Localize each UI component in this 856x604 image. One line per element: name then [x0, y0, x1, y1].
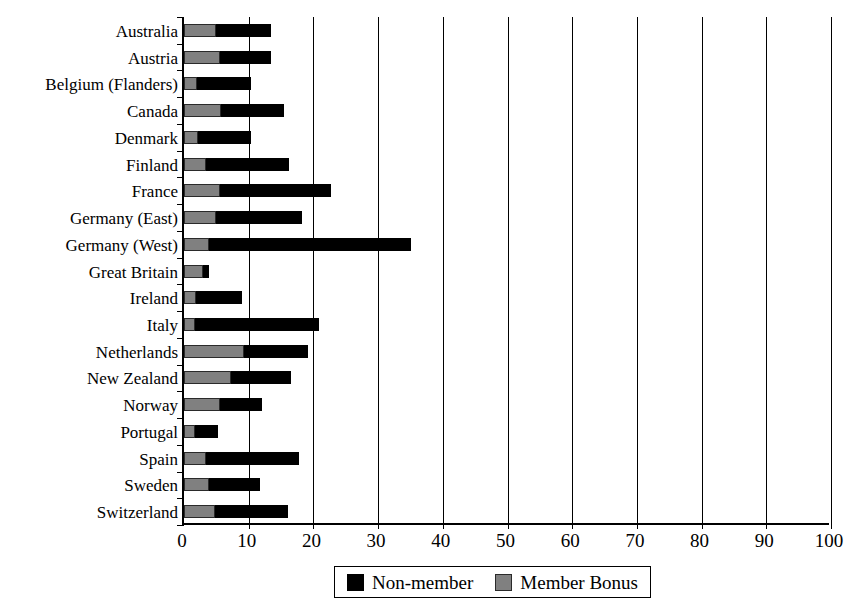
gridline-10 — [249, 17, 250, 523]
gridline-70 — [637, 17, 638, 523]
y-axis-label: Norway — [2, 397, 178, 414]
x-tick-label: 100 — [815, 530, 844, 552]
y-tick — [177, 44, 184, 45]
y-tick — [177, 97, 184, 98]
bar-segment-non-member — [206, 158, 289, 171]
bar-segment-member-bonus — [184, 478, 209, 491]
x-tick-label: 30 — [367, 530, 386, 552]
bar-segment-non-member — [216, 211, 302, 224]
y-axis-label: Netherlands — [2, 344, 178, 361]
y-axis-label: Italy — [2, 317, 178, 334]
bar-segment-member-bonus — [184, 77, 197, 90]
y-tick — [177, 472, 184, 473]
x-tick-80 — [702, 523, 703, 529]
bar-segment-member-bonus — [184, 184, 220, 197]
bar-segment-member-bonus — [184, 131, 198, 144]
bar-chart: AustraliaAustriaBelgium (Flanders)Canada… — [0, 0, 856, 604]
bar-segment-non-member — [216, 24, 270, 37]
gridline-20 — [313, 17, 314, 523]
legend-entry: Member Bonus — [495, 573, 638, 592]
bar-segment-member-bonus — [184, 452, 206, 465]
plot-area — [182, 17, 829, 525]
bar-segment-member-bonus — [184, 398, 220, 411]
bar-segment-member-bonus — [184, 158, 206, 171]
bar-segment-member-bonus — [184, 345, 244, 358]
bar-segment-member-bonus — [184, 425, 195, 438]
gridline-100 — [831, 17, 832, 523]
bar-segment-non-member — [209, 478, 260, 491]
gridline-40 — [443, 17, 444, 523]
x-tick-40 — [443, 523, 444, 529]
y-axis-label: Australia — [2, 23, 178, 40]
y-tick — [177, 498, 184, 499]
x-tick-label: 50 — [496, 530, 515, 552]
y-axis-label: France — [2, 183, 178, 200]
x-tick-label: 90 — [755, 530, 774, 552]
bar-segment-member-bonus — [184, 318, 195, 331]
y-tick — [177, 151, 184, 152]
bar-segment-member-bonus — [184, 371, 231, 384]
y-tick — [177, 258, 184, 259]
x-tick-90 — [766, 523, 767, 529]
y-axis-labels: AustraliaAustriaBelgium (Flanders)Canada… — [0, 17, 178, 525]
y-axis-label: Canada — [2, 103, 178, 120]
legend-entry: Non-member — [347, 573, 473, 592]
y-axis-label: Belgium (Flanders) — [2, 76, 178, 93]
y-axis-label: Germany (East) — [2, 210, 178, 227]
y-tick — [177, 391, 184, 392]
gridline-50 — [508, 17, 509, 523]
bar-segment-member-bonus — [184, 291, 196, 304]
bar-segment-member-bonus — [184, 51, 220, 64]
y-tick — [177, 365, 184, 366]
gridline-80 — [702, 17, 703, 523]
y-axis-label: Sweden — [2, 477, 178, 494]
x-tick-10 — [249, 523, 250, 529]
y-tick — [177, 284, 184, 285]
x-tick-label: 70 — [625, 530, 644, 552]
gridline-90 — [766, 17, 767, 523]
x-tick-70 — [637, 523, 638, 529]
y-tick — [177, 418, 184, 419]
bar-segment-non-member — [215, 505, 287, 518]
y-tick — [177, 70, 184, 71]
bar-segment-member-bonus — [184, 238, 209, 251]
bar-segment-non-member — [231, 371, 291, 384]
x-tick-label: 0 — [177, 530, 187, 552]
bar-segment-non-member — [196, 291, 242, 304]
bar-segment-non-member — [220, 51, 270, 64]
bar-segment-non-member — [206, 452, 299, 465]
legend-label: Member Bonus — [520, 573, 638, 592]
bar-segment-non-member — [220, 398, 262, 411]
y-tick — [177, 177, 184, 178]
y-axis-label: New Zealand — [2, 370, 178, 387]
x-tick-label: 60 — [561, 530, 580, 552]
legend-swatch-black — [347, 574, 364, 591]
bar-segment-non-member — [244, 345, 308, 358]
bar-segment-non-member — [220, 184, 331, 197]
x-tick-label: 40 — [431, 530, 450, 552]
x-tick-100 — [831, 523, 832, 529]
bar-segment-member-bonus — [184, 24, 216, 37]
y-axis-label: Great Britain — [2, 264, 178, 281]
x-tick-50 — [508, 523, 509, 529]
y-tick — [177, 231, 184, 232]
y-axis-label: Finland — [2, 157, 178, 174]
x-tick-label: 10 — [237, 530, 256, 552]
gridline-60 — [572, 17, 573, 523]
bar-segment-member-bonus — [184, 104, 221, 117]
x-axis-tick-labels: 0102030405060708090100 — [182, 530, 829, 556]
x-tick-60 — [572, 523, 573, 529]
y-tick — [177, 311, 184, 312]
bar-segment-non-member — [195, 425, 218, 438]
bar-segment-non-member — [203, 265, 209, 278]
y-tick — [177, 204, 184, 205]
chart-legend: Non-memberMember Bonus — [334, 566, 651, 598]
bar-segment-non-member — [198, 131, 251, 144]
y-tick — [177, 124, 184, 125]
y-tick — [177, 445, 184, 446]
x-tick-label: 80 — [690, 530, 709, 552]
x-tick-label: 20 — [302, 530, 321, 552]
y-axis-label: Portugal — [2, 424, 178, 441]
x-tick-20 — [313, 523, 314, 529]
bar-segment-non-member — [195, 318, 319, 331]
